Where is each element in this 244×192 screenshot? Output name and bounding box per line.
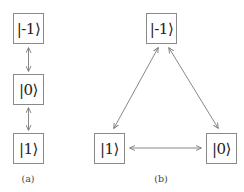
arrow-b-minus1-one [114,48,158,128]
state-box-b-minus1: |-1⟩ [146,13,177,44]
figure: |-1⟩ |0⟩ |1⟩ (a) |-1⟩ |1⟩ |0⟩ (b) [0,0,244,192]
caption-a: (a) [21,173,34,184]
caption-b: (b) [154,173,168,184]
state-box-a-zero: |0⟩ [13,74,44,105]
arrow-b-minus1-zero [169,48,218,128]
state-box-b-zero: |0⟩ [206,133,237,164]
state-box-a-one: |1⟩ [13,133,44,164]
state-box-b-one: |1⟩ [94,133,125,164]
state-box-a-minus1: |-1⟩ [13,13,44,44]
